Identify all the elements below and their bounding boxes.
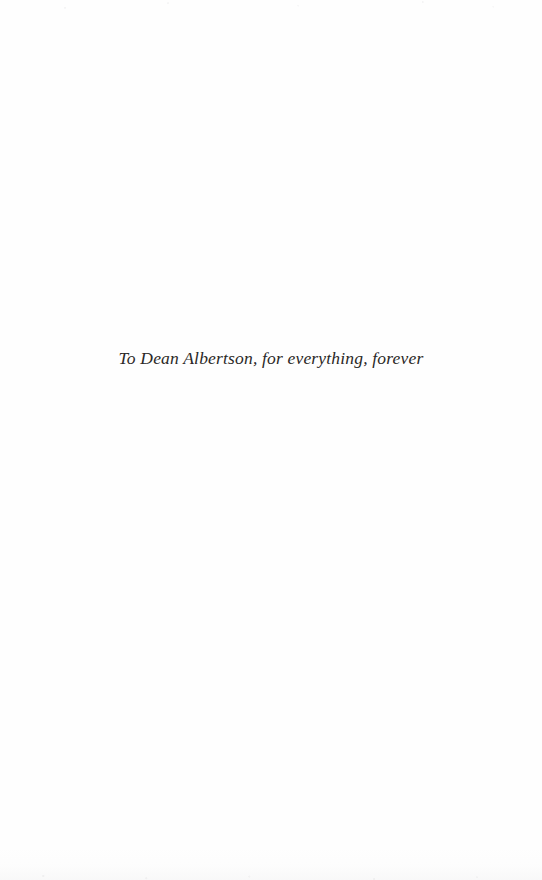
scan-grain-top-edge (0, 0, 542, 26)
dedication-page: To Dean Albertson, for everything, forev… (0, 0, 542, 880)
scan-grain-bottom-edge (0, 846, 542, 880)
dedication-text: To Dean Albertson, for everything, forev… (119, 344, 424, 372)
dedication-block: To Dean Albertson, for everything, forev… (0, 344, 542, 372)
